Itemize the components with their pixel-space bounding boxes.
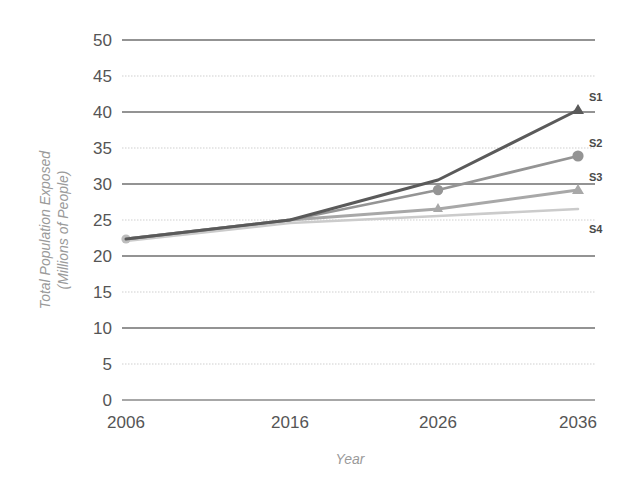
y-tick-35: 35	[93, 139, 112, 158]
y-tick-50: 50	[93, 31, 112, 50]
chart-container: 50 45 40 35 30 25 20 15 10 5 0 2006 2016…	[0, 0, 632, 485]
series-s2-line	[126, 156, 578, 239]
y-tick-10: 10	[93, 319, 112, 338]
y-axis-tick-labels: 50 45 40 35 30 25 20 15 10 5 0	[93, 31, 112, 410]
series-s4-line	[126, 209, 578, 241]
series-s2-marker-2036	[572, 150, 583, 161]
x-tick-2036: 2036	[559, 413, 597, 432]
series-label-s3[interactable]: S3	[589, 171, 602, 183]
y-tick-30: 30	[93, 175, 112, 194]
series-s4	[126, 209, 578, 241]
series-s3-marker-2036	[572, 184, 584, 194]
series-label-s1[interactable]: S1	[589, 91, 602, 103]
y-tick-25: 25	[93, 211, 112, 230]
series-s2-marker-2026	[433, 185, 443, 195]
x-axis-title: Year	[336, 451, 366, 467]
y-tick-5: 5	[103, 355, 112, 374]
series-label-s4[interactable]: S4	[589, 223, 603, 235]
series-s2	[121, 150, 583, 243]
series-label-s2[interactable]: S2	[589, 137, 602, 149]
x-tick-2016: 2016	[271, 413, 309, 432]
y-axis-title-line1: Total Population Exposed	[37, 150, 53, 309]
y-tick-0: 0	[103, 391, 112, 410]
series-s1-marker-2036	[572, 104, 584, 114]
y-tick-20: 20	[93, 247, 112, 266]
x-tick-2006: 2006	[107, 413, 145, 432]
y-tick-45: 45	[93, 67, 112, 86]
y-tick-40: 40	[93, 103, 112, 122]
x-axis-tick-labels: 2006 2016 2026 2036	[107, 413, 597, 432]
line-chart: 50 45 40 35 30 25 20 15 10 5 0 2006 2016…	[0, 0, 632, 485]
x-tick-2026: 2026	[419, 413, 457, 432]
y-tick-15: 15	[93, 283, 112, 302]
y-axis-title-line2: (Millions of People)	[55, 170, 71, 289]
